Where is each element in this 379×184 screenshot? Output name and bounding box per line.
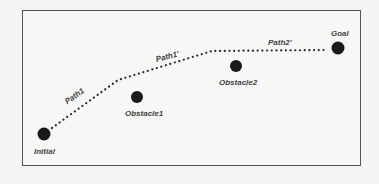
path2prime-label: Path2' — [268, 39, 292, 47]
initial-node — [38, 128, 51, 141]
obstacle2-node — [230, 60, 242, 72]
goal-label: Goal — [331, 30, 349, 38]
dotted-path — [52, 50, 326, 128]
path-diagram — [0, 0, 379, 184]
obstacle1-node — [131, 91, 143, 103]
obstacle2-label: Obstacle2 — [219, 79, 257, 87]
initial-label: Initial — [34, 148, 55, 156]
goal-node — [332, 42, 345, 55]
obstacle1-label: Obstacle1 — [125, 110, 163, 118]
